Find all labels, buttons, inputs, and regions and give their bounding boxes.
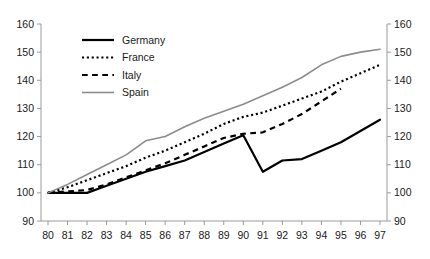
y-axis-tick-label-left: 120 [16,130,34,142]
x-axis-tick-label: 86 [159,229,171,241]
y-axis-right: 90100110120130140150160 [387,18,412,227]
x-axis-tick-label: 80 [42,229,54,241]
y-axis-tick-label-left: 140 [16,74,34,86]
x-axis-tick-label: 84 [120,229,132,241]
y-axis-tick-label-left: 100 [16,186,34,198]
x-axis-tick-label: 96 [355,229,367,241]
x-axis-tick-label: 87 [179,229,191,241]
x-axis-tick-label: 83 [101,229,113,241]
y-axis-tick-label-right: 160 [394,18,412,30]
y-axis-tick-label-left: 150 [16,46,34,58]
x-axis-tick-label: 95 [335,229,347,241]
y-axis-tick-label-right: 90 [394,215,406,227]
series-line-france [48,65,380,193]
y-axis-tick-label-left: 160 [16,18,34,30]
line-chart: 90100110120130140150160 9010011012013014… [0,0,430,259]
y-axis-tick-label-right: 140 [394,74,412,86]
y-axis-tick-label-right: 130 [394,102,412,114]
series-layer [48,49,380,193]
y-axis-tick-label-right: 110 [394,158,411,170]
y-axis-tick-label-right: 120 [394,130,412,142]
series-line-spain [48,49,380,193]
x-axis-tick-label: 81 [62,229,74,241]
y-axis-left: 90100110120130140150160 [16,18,41,227]
y-axis-tick-label-left: 130 [16,102,34,114]
chart-legend: GermanyFranceItalySpain [82,34,166,99]
x-axis-tick-label: 85 [140,229,152,241]
x-axis-tick-label: 88 [198,229,210,241]
legend-label-france: France [122,51,155,63]
x-axis-tick-label: 90 [237,229,249,241]
legend-label-italy: Italy [122,69,142,81]
x-axis-tick-label: 82 [81,229,93,241]
series-line-italy [48,89,341,193]
y-axis-tick-label-left: 110 [17,158,34,170]
x-axis: 808182838485868788899091929394959697 [41,221,387,241]
x-axis-tick-label: 94 [316,229,328,241]
y-axis-tick-label-left: 90 [22,215,34,227]
x-axis-tick-label: 92 [277,229,289,241]
y-axis-tick-label-right: 150 [394,46,412,58]
x-axis-tick-label: 93 [296,229,308,241]
x-axis-tick-label: 91 [257,229,269,241]
y-axis-tick-label-right: 100 [394,186,412,198]
x-axis-tick-label: 97 [374,229,386,241]
x-axis-tick-label: 89 [218,229,230,241]
series-line-germany [48,120,380,193]
legend-label-spain: Spain [122,86,149,98]
chart-plot-area: 90100110120130140150160 9010011012013014… [0,0,430,259]
legend-label-germany: Germany [122,34,166,46]
